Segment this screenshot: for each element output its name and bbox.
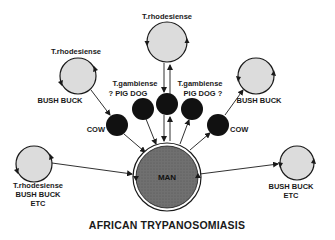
host-dots	[106, 93, 229, 136]
cycle-lower-left	[14, 146, 54, 182]
cycle-lower-right	[278, 146, 316, 180]
lower-left-host-label: BUSH BUCK	[16, 190, 62, 199]
upper-right-host-label: BUSH BUCK	[237, 96, 283, 105]
man-node: MAN	[133, 143, 201, 211]
cycle-top	[145, 22, 190, 62]
diagram-title: AFRICAN TRYPANOSOMIASIS	[89, 219, 245, 231]
lower-right-host-label: BUSH BUCK	[269, 182, 315, 191]
trypanosomiasis-diagram: MAN T.rhodesiense T.rhodesiense BUSH BUC…	[0, 0, 335, 240]
host-dot-right-pig-dog	[181, 98, 203, 120]
cycle-upper-right	[236, 58, 276, 94]
right-cow-label: COW	[230, 125, 249, 134]
host-dot-right-cow	[207, 114, 229, 136]
left-cow-label: COW	[87, 125, 106, 134]
right-group-hosts-label: PIG DOG ?	[184, 89, 223, 98]
top-species-label: T.rhodesiense	[142, 12, 192, 21]
cycle-upper-left	[58, 58, 98, 94]
host-dot-left-cow	[106, 114, 128, 136]
right-group-species-label: T.gambiense	[177, 79, 222, 88]
host-dot-center	[156, 93, 178, 115]
upper-left-host-label: BUSH BUCK	[38, 96, 84, 105]
left-group-species-label: T.gambiense	[112, 79, 157, 88]
upper-left-species-label: T.rhodesiense	[51, 47, 101, 56]
host-dot-left-pig-dog	[132, 98, 154, 120]
lower-left-species-label: T.rhodesiense	[13, 181, 63, 190]
lower-right-etc-label: ETC	[284, 191, 300, 200]
left-group-hosts-label: ? PIG DOG	[109, 89, 148, 98]
man-label: MAN	[158, 173, 176, 182]
lower-left-etc-label: ETC	[31, 199, 47, 208]
